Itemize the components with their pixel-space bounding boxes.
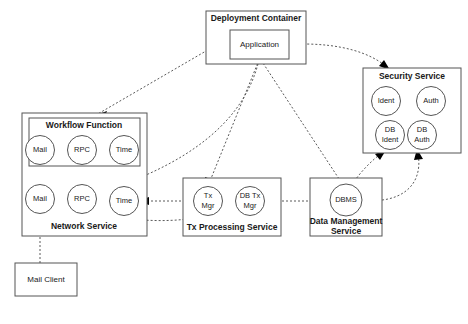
network-service-container[interactable]: Network Service Workflow Function Mail R…	[22, 113, 147, 236]
node-db-auth-label-line2: Auth	[414, 135, 429, 144]
node-ns-mail[interactable]: Mail	[26, 185, 55, 214]
node-db-tx-mgr[interactable]: DB Tx Mgr	[236, 187, 265, 216]
mail-client-box[interactable]: Mail Client	[15, 263, 77, 296]
workflow-function-container[interactable]: Workflow Function Mail RPC Time	[26, 118, 141, 166]
data-management-service-container[interactable]: Data Management Service DBMS	[310, 178, 383, 236]
node-db-auth-label-line1: DB	[417, 125, 427, 134]
node-wf-mail[interactable]: Mail	[26, 136, 55, 165]
diagram-canvas: Deployment Container Application Securit…	[0, 0, 468, 324]
connector-app-to-security	[303, 44, 390, 70]
data-management-service-label-line2: Service	[331, 226, 362, 236]
node-ns-rpc-label: RPC	[74, 194, 90, 203]
node-ns-time[interactable]: Time	[110, 187, 139, 216]
node-wf-mail-label: Mail	[33, 145, 47, 154]
node-db-ident-label-line1: DB	[385, 125, 395, 134]
node-dbms[interactable]: DBMS	[330, 184, 362, 216]
connector-app-to-dbms	[261, 60, 347, 191]
node-auth-label: Auth	[423, 96, 438, 105]
node-ident[interactable]: Ident	[372, 87, 401, 116]
security-service-container[interactable]: Security Service Ident Auth DB Ident DB …	[363, 68, 461, 153]
node-ns-rpc[interactable]: RPC	[68, 185, 97, 214]
node-db-ident-label-line2: Ident	[382, 135, 400, 144]
node-auth[interactable]: Auth	[417, 87, 446, 116]
connector-app-to-workflow	[96, 44, 218, 119]
application-box[interactable]: Application	[230, 30, 289, 59]
node-tx-mgr-label-line1: Tx	[204, 191, 213, 200]
security-service-label: Security Service	[379, 71, 445, 81]
tx-processing-service-container[interactable]: Tx Processing Service Tx Mgr DB Tx Mgr	[183, 178, 281, 236]
application-label: Application	[240, 40, 279, 49]
node-ident-label: Ident	[378, 96, 396, 105]
node-wf-rpc[interactable]: RPC	[68, 136, 97, 165]
node-ns-mail-label: Mail	[33, 194, 47, 203]
node-db-tx-mgr-label-line1: DB Tx	[240, 191, 261, 200]
node-wf-rpc-label: RPC	[74, 145, 90, 154]
node-wf-time-label: Time	[116, 145, 132, 154]
tx-processing-service-label: Tx Processing Service	[187, 222, 278, 232]
node-dbms-label: DBMS	[335, 195, 357, 204]
node-ns-time-label: Time	[116, 196, 132, 205]
data-management-service-label-line1: Data Management	[310, 216, 383, 226]
node-db-tx-mgr-label-line2: Mgr	[244, 201, 257, 210]
workflow-function-label: Workflow Function	[46, 120, 122, 130]
deployment-container-label: Deployment Container	[211, 13, 302, 23]
node-db-auth[interactable]: DB Auth	[408, 121, 437, 150]
mail-client-label: Mail Client	[27, 275, 65, 284]
node-wf-time[interactable]: Time	[110, 136, 139, 165]
node-db-ident[interactable]: DB Ident	[376, 121, 405, 150]
connector-app-to-tx-mgr	[205, 60, 259, 189]
node-tx-mgr[interactable]: Tx Mgr	[194, 187, 223, 216]
architecture-diagram: Deployment Container Application Securit…	[0, 0, 468, 324]
network-service-label: Network Service	[51, 221, 117, 231]
node-tx-mgr-label-line2: Mgr	[202, 201, 215, 210]
deployment-container[interactable]: Deployment Container Application	[206, 11, 306, 64]
